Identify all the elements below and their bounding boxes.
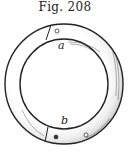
rivet-dot xyxy=(84,133,88,137)
rivet-dot xyxy=(55,29,59,33)
label-a: a xyxy=(58,40,65,51)
split-ring-diagram xyxy=(0,0,130,155)
label-b: b xyxy=(61,115,68,126)
rivet-dot xyxy=(54,135,58,139)
